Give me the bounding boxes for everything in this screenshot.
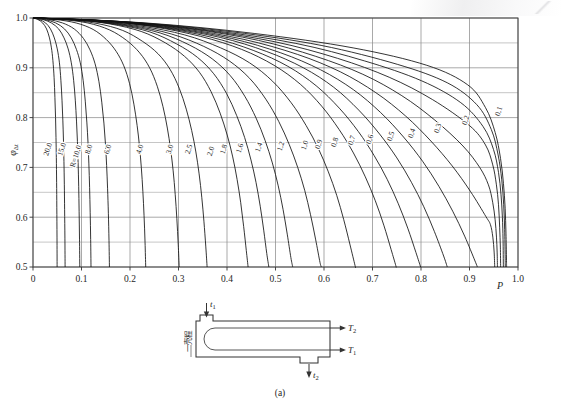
curve-label-text: 2.5 xyxy=(183,143,195,155)
curve-label: 1.41.4 xyxy=(253,141,265,153)
curve-label-text: 0.4 xyxy=(406,127,418,139)
svg-text:一壳程: 一壳程 xyxy=(183,330,193,352)
curve-label: 8.08.0 xyxy=(83,143,95,155)
y-axis-title: φΔt xyxy=(7,144,19,156)
curve-label: 20.020.0 xyxy=(41,141,54,157)
curve-label-text: R=10.0 xyxy=(68,144,84,169)
curve-label: 1.61.6 xyxy=(234,142,246,154)
outlet-t2-label: t2 xyxy=(313,370,319,381)
curve-label: 6.06.0 xyxy=(102,143,114,155)
curve-label: R=10.0R=10.0 xyxy=(68,144,84,169)
figure-caption: (a) xyxy=(275,388,286,399)
curve-label: 3.03.0 xyxy=(164,143,176,155)
y-tick-label: 0.9 xyxy=(16,63,28,73)
curve-label-text: 1.0 xyxy=(299,139,311,151)
T2-arrow-head xyxy=(340,325,346,330)
curve-label-text: 1.6 xyxy=(234,142,246,154)
x-tick-label: 0.8 xyxy=(415,274,427,284)
curve-label: 0.80.8 xyxy=(329,136,341,148)
curve-label-text: 0.9 xyxy=(313,138,325,150)
curve-label: 1.01.0 xyxy=(299,139,311,151)
curve-label-text: 3.0 xyxy=(164,143,176,155)
svg-text:φΔt: φΔt xyxy=(7,144,19,156)
curve-label-layer: 20.020.015.015.0R=10.0R=10.08.08.06.06.0… xyxy=(41,105,504,168)
curve-label-text: 0.3 xyxy=(432,122,444,134)
curve-label-text: 1.4 xyxy=(253,141,265,153)
u-tube xyxy=(204,328,330,350)
curve-label-text: 8.0 xyxy=(83,143,95,155)
x-tick-label: 0.7 xyxy=(367,274,379,284)
curve-label-text: 20.0 xyxy=(41,141,54,157)
x-tick-label: 0.3 xyxy=(173,274,185,284)
shell-outline xyxy=(196,315,330,363)
x-tick-label: 1.0 xyxy=(512,274,524,284)
x-tick-label: 0.5 xyxy=(270,274,282,284)
curve-label: 0.50.5 xyxy=(385,130,397,142)
x-tick-label: 0 xyxy=(31,274,36,284)
T1-arrow-head xyxy=(340,347,346,352)
curve-label-text: 0.6 xyxy=(364,133,376,145)
curve-label-text: 4.0 xyxy=(134,143,146,155)
outlet-arrow-head xyxy=(306,372,311,379)
curve-label: 0.10.1 xyxy=(493,105,505,117)
curve-label-text: 0.1 xyxy=(493,105,505,117)
curve-label-text: 6.0 xyxy=(102,143,114,155)
curve-label: 0.70.7 xyxy=(346,134,358,146)
y-tick-label: 0.7 xyxy=(16,163,28,173)
y-tick-label: 0.8 xyxy=(16,113,28,123)
y-tick-label: 0.6 xyxy=(16,213,28,223)
lmtd-correction-chart: 00.10.20.30.40.50.60.70.80.91.00.50.60.7… xyxy=(0,0,561,404)
heat-exchanger-diagram: t1 t2 T2 T1 一壳程 xyxy=(183,299,356,381)
curve-label: 4.04.0 xyxy=(134,143,146,155)
curve-label-text: 0.8 xyxy=(329,136,341,148)
inlet-T1-label: T1 xyxy=(348,345,356,356)
curve-label-text: 1.2 xyxy=(275,140,287,152)
curve-label: 0.90.9 xyxy=(313,138,325,150)
y-tick-label: 1.0 xyxy=(16,13,28,23)
curve-label-text: 0.5 xyxy=(385,130,397,142)
x-tick-label: 0.9 xyxy=(464,274,476,284)
curve-label: 2.52.5 xyxy=(183,143,195,155)
x-tick-label: 0.4 xyxy=(221,274,233,284)
curve-label-text: 15.0 xyxy=(55,141,68,157)
curve-label: 1.21.2 xyxy=(275,140,287,152)
figure-root: 00.10.20.30.40.50.60.70.80.91.00.50.60.7… xyxy=(0,0,561,404)
curve-label: 0.40.4 xyxy=(406,127,418,139)
curve-label: 15.015.0 xyxy=(55,141,68,157)
curve-label-text: 2.0 xyxy=(205,145,217,157)
shell-pass-label: 一壳程 xyxy=(183,330,193,352)
x-tick-label: 0.6 xyxy=(318,274,330,284)
x-tick-label: 0.1 xyxy=(76,274,88,284)
curve-label-text: 0.7 xyxy=(346,134,358,146)
curve-layer xyxy=(33,18,507,268)
outlet-T2-label: T2 xyxy=(348,323,356,334)
x-tick-label: 0.2 xyxy=(124,274,136,284)
inlet-t1-label: t1 xyxy=(210,299,216,310)
curve-label-text: 1.8 xyxy=(218,143,230,155)
x-axis-title: P xyxy=(496,280,503,291)
curve-label: 0.30.3 xyxy=(432,122,444,134)
curve-label: 1.81.8 xyxy=(218,143,230,155)
curve-label: 2.02.0 xyxy=(205,145,217,157)
y-tick-label: 0.5 xyxy=(16,262,28,272)
curve-label: 0.60.6 xyxy=(364,133,376,145)
